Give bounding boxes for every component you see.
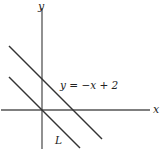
y-axis-label: y	[37, 0, 45, 13]
coordinate-diagram: x y y = −x + 2 L	[0, 0, 163, 152]
x-axis-label: x	[153, 103, 160, 116]
line-equation-label: y = −x + 2	[59, 79, 119, 91]
line-L-label: L	[54, 134, 62, 146]
line-y-eq-neg-x-plus-2	[9, 46, 102, 139]
